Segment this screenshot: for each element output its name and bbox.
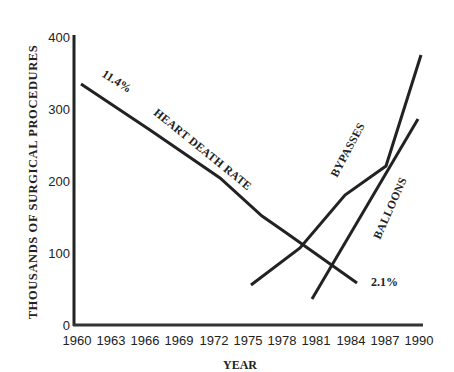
label-heart-death-rate: HEART DEATH RATE	[152, 106, 254, 192]
svg-text:400: 400	[48, 30, 70, 45]
svg-text:0: 0	[63, 318, 70, 333]
svg-text:100: 100	[48, 246, 70, 261]
x-tick-labels: 1960 1963 1966 1969 1972 1975 1978 1981 …	[63, 333, 434, 348]
annotation-end-rate: 2.1%	[371, 275, 398, 289]
svg-text:1987: 1987	[371, 333, 400, 348]
svg-text:1960: 1960	[63, 333, 92, 348]
series-balloons	[312, 119, 418, 299]
annotation-start-rate: 11.4%	[99, 67, 134, 96]
x-axis-title: YEAR	[223, 358, 257, 372]
y-axis-title: THOUSANDS OF SURGICAL PROCEDURES	[26, 45, 40, 320]
svg-text:1978: 1978	[268, 333, 297, 348]
y-tick-labels: 0 100 200 300 400	[48, 30, 70, 333]
svg-text:1972: 1972	[200, 333, 229, 348]
svg-text:1963: 1963	[97, 333, 126, 348]
series-heart-death-rate	[81, 84, 357, 283]
chart: 0 100 200 300 400 1960 1963 1966 1969 19…	[0, 0, 454, 372]
svg-text:1981: 1981	[302, 333, 331, 348]
svg-text:1984: 1984	[337, 333, 366, 348]
svg-text:1990: 1990	[405, 333, 434, 348]
svg-text:1975: 1975	[234, 333, 263, 348]
label-balloons: BALLOONS	[371, 175, 409, 240]
svg-text:200: 200	[48, 174, 70, 189]
label-bypasses: BYPASSES	[328, 121, 367, 179]
svg-text:300: 300	[48, 102, 70, 117]
svg-text:1966: 1966	[131, 333, 160, 348]
svg-text:1969: 1969	[165, 333, 194, 348]
